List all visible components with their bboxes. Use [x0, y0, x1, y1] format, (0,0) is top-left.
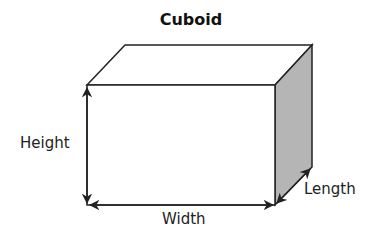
top-face: [87, 45, 312, 85]
length-label: Length: [304, 180, 356, 198]
width-label: Width: [162, 210, 206, 228]
front-face: [87, 85, 275, 205]
height-label: Height: [20, 134, 70, 152]
